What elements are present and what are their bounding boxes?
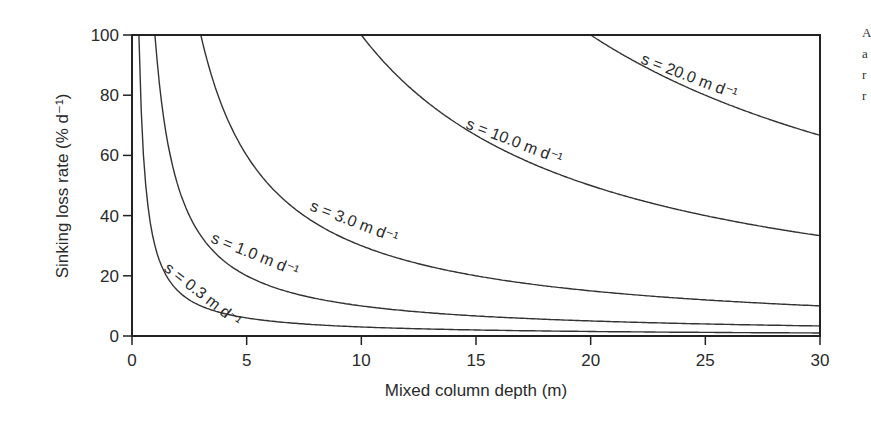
x-tick-label: 10: [352, 351, 371, 370]
y-tick-label: 100: [91, 26, 119, 45]
x-tick-label: 20: [581, 351, 600, 370]
y-tick-label: 20: [100, 267, 119, 286]
x-tick-label: 5: [242, 351, 251, 370]
curve-label: s = 0.3 m d⁻¹: [161, 259, 245, 330]
y-tick-label: 0: [110, 327, 119, 346]
x-axis-ticks: 051015202530: [127, 336, 829, 370]
curve-label: s = 10.0 m d⁻¹: [464, 115, 565, 167]
x-tick-label: 30: [811, 351, 830, 370]
x-tick-label: 25: [696, 351, 715, 370]
curve-labels: s = 0.3 m d⁻¹s = 1.0 m d⁻¹s = 3.0 m d⁻¹s…: [161, 50, 740, 330]
margin-char: A: [862, 22, 871, 43]
curve-label: s = 3.0 m d⁻¹: [308, 197, 401, 246]
curve-label: s = 1.0 m d⁻¹: [209, 229, 302, 280]
y-tick-label: 40: [100, 207, 119, 226]
y-axis-ticks: 020406080100: [91, 26, 132, 346]
y-tick-label: 80: [100, 86, 119, 105]
x-tick-label: 15: [467, 351, 486, 370]
y-axis-title: Sinking loss rate (% d⁻¹): [53, 94, 72, 279]
y-tick-label: 60: [100, 146, 119, 165]
x-axis-title: Mixed column depth (m): [385, 381, 567, 400]
margin-char: r: [862, 64, 866, 85]
curve-s-10: [361, 35, 820, 236]
sinking-loss-chart: 020406080100 051015202530 s = 0.3 m d⁻¹s…: [0, 0, 871, 440]
x-tick-label: 0: [127, 351, 136, 370]
margin-char: a: [862, 43, 868, 64]
curve-label: s = 20.0 m d⁻¹: [639, 50, 740, 102]
margin-char: r: [862, 85, 866, 106]
